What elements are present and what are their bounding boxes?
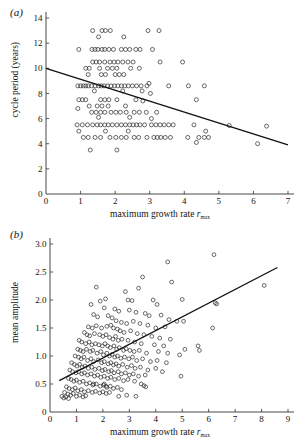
data-point — [170, 280, 174, 284]
data-point — [97, 115, 101, 119]
data-point — [256, 142, 260, 146]
data-point — [123, 355, 127, 359]
data-point — [96, 315, 100, 319]
data-point — [99, 135, 103, 139]
data-point — [133, 366, 137, 370]
data-point — [135, 332, 139, 336]
data-point — [154, 123, 158, 127]
data-point — [124, 110, 128, 114]
data-point — [119, 135, 123, 139]
data-point — [178, 353, 182, 357]
data-point — [98, 299, 102, 303]
data-point — [157, 350, 161, 354]
data-point — [129, 329, 133, 333]
data-point — [196, 344, 200, 348]
x-tick-label: 8 — [259, 414, 264, 424]
data-point — [114, 319, 118, 323]
data-point — [137, 349, 141, 353]
data-point — [179, 374, 183, 378]
data-point — [85, 347, 89, 351]
data-point — [204, 129, 208, 133]
data-point — [86, 325, 90, 329]
y-tick-label: 12 — [34, 38, 43, 48]
data-point — [146, 323, 150, 327]
y-tick-label: 14 — [34, 13, 44, 23]
y-tick-label: 10 — [34, 63, 44, 73]
data-point — [100, 104, 104, 108]
data-point — [162, 123, 166, 127]
data-point — [144, 110, 148, 114]
data-point — [100, 326, 104, 330]
data-point — [133, 379, 137, 383]
panel-a-xlabel-subscript: max — [201, 214, 210, 220]
data-point — [89, 303, 93, 307]
data-point — [131, 355, 135, 359]
data-point — [212, 253, 216, 257]
data-point — [81, 379, 85, 383]
data-point — [114, 110, 118, 114]
data-point — [145, 84, 149, 88]
panel-a-plot: 0246810121401234567 — [0, 0, 299, 223]
data-point — [116, 338, 120, 342]
data-point — [112, 60, 116, 64]
data-point — [128, 349, 132, 353]
data-point — [265, 124, 269, 128]
data-point — [121, 363, 125, 367]
data-point — [88, 148, 92, 152]
data-point — [113, 73, 117, 77]
data-point — [134, 98, 138, 102]
data-point — [137, 135, 141, 139]
data-point — [202, 84, 206, 88]
data-point — [139, 365, 143, 369]
data-point — [134, 47, 138, 51]
data-point — [171, 123, 175, 127]
data-point — [116, 60, 120, 64]
data-point — [104, 297, 108, 301]
data-point — [132, 350, 136, 354]
x-tick-label: 2 — [113, 196, 118, 206]
x-tick-label: 1 — [78, 196, 83, 206]
data-point — [151, 298, 155, 302]
data-point — [168, 135, 172, 139]
data-point — [158, 336, 162, 340]
data-point — [127, 308, 131, 312]
figure-container: (a) cycle period (years) 024681012140123… — [0, 0, 299, 447]
data-point — [131, 319, 135, 323]
data-point — [97, 366, 101, 370]
panel-a-xlabel-symbol: r — [197, 209, 201, 219]
y-tick-label: 2 — [38, 164, 43, 174]
data-point — [107, 47, 111, 51]
data-point — [115, 123, 119, 127]
data-point — [120, 372, 124, 376]
y-tick-label: 0 — [42, 407, 47, 417]
y-tick-label: 0.5 — [35, 379, 47, 389]
y-tick-label: 4 — [38, 139, 43, 149]
x-tick-label: 5 — [217, 196, 222, 206]
data-point — [95, 351, 99, 355]
data-point — [75, 123, 79, 127]
data-point — [211, 326, 215, 330]
data-point — [137, 110, 141, 114]
data-point — [206, 135, 210, 139]
data-point — [93, 135, 97, 139]
data-point — [108, 135, 112, 139]
data-point — [194, 98, 198, 102]
data-point — [131, 60, 135, 64]
y-tick-label: 3.0 — [35, 239, 47, 249]
data-point — [143, 312, 147, 316]
data-point — [164, 361, 168, 365]
data-point — [108, 391, 112, 395]
data-point — [110, 316, 114, 320]
data-point — [110, 123, 114, 127]
data-point — [115, 98, 119, 102]
data-point — [159, 313, 163, 317]
data-point — [146, 368, 150, 372]
data-point — [77, 47, 81, 51]
y-tick-label: 2.0 — [35, 295, 47, 305]
y-tick-label: 0 — [38, 189, 43, 199]
data-point — [97, 35, 101, 39]
data-point — [132, 135, 136, 139]
data-point — [113, 307, 117, 311]
data-point — [125, 365, 129, 369]
data-point — [130, 84, 134, 88]
